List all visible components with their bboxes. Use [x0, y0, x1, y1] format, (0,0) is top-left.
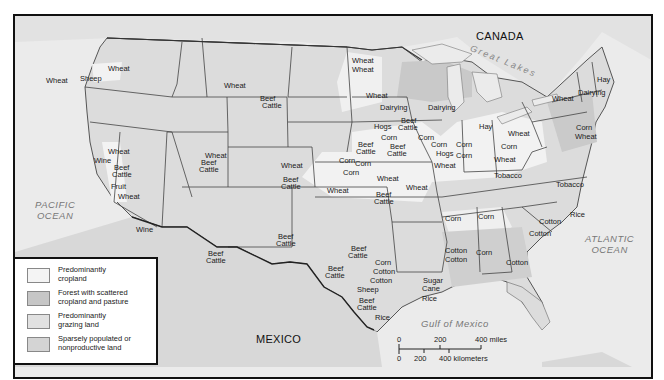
- label-pacific-ocean: PACIFIC OCEAN: [35, 199, 75, 221]
- legend-label: Predominantly grazing land: [58, 312, 106, 329]
- crop-label-hay: Hay: [479, 123, 492, 131]
- crop-label-dairying: Dairying: [578, 89, 606, 97]
- crop-label-rice: Rice: [570, 211, 585, 219]
- scale-km-0: 0: [397, 354, 401, 363]
- crop-label-wheat: Wheat: [224, 82, 246, 90]
- crop-label-rice: Rice: [422, 295, 437, 303]
- crop-label-corn: Corn: [339, 157, 355, 165]
- crop-label-corn: Corn: [501, 143, 517, 151]
- crop-label-sheep: Sheep: [357, 286, 379, 294]
- crop-label-cotton: Cotton: [539, 218, 561, 226]
- crop-label-cattle: Cattle: [356, 148, 376, 156]
- legend-swatch-cropland: [27, 268, 50, 283]
- label-canada: CANADA: [476, 30, 524, 42]
- legend-label: Predominantly cropland: [58, 266, 106, 283]
- crop-label-corn: Corn: [343, 169, 359, 177]
- crop-label-corn: Corn: [381, 134, 397, 142]
- crop-label-hay: Hay: [597, 76, 610, 84]
- crop-label-cane: Cane: [422, 285, 440, 293]
- crop-label-dairying: Dairying: [428, 104, 456, 112]
- legend-swatch-grazing: [27, 314, 50, 329]
- label-mexico: MEXICO: [256, 333, 301, 345]
- legend-item-cropland: Predominantly cropland: [27, 266, 157, 288]
- crop-label-corn: Corn: [355, 160, 371, 168]
- crop-label-wheat: Wheat: [366, 92, 388, 100]
- crop-label-hogs: Hogs: [436, 150, 454, 158]
- crop-label-cattle: Cattle: [262, 102, 282, 110]
- crop-label-corn: Corn: [431, 141, 447, 149]
- legend-line2: grazing land: [58, 321, 106, 330]
- crop-label-cattle: Cattle: [387, 150, 407, 158]
- crop-label-wheat: Wheat: [46, 77, 68, 85]
- crop-label-corn: Corn: [445, 215, 461, 223]
- crop-label-wheat: Wheat: [108, 148, 130, 156]
- atlantic-line2: OCEAN: [585, 244, 634, 255]
- crop-label-wine: Wine: [94, 157, 111, 165]
- label-gulf-of-mexico: Gulf of Mexico: [421, 318, 489, 329]
- crop-label-sheep: Sheep: [80, 75, 102, 83]
- legend-swatch-sparse: [27, 337, 50, 352]
- crop-label-cattle: Cattle: [281, 183, 301, 191]
- scale-miles-400: 400 miles: [475, 335, 507, 344]
- legend-label: Forest with scattered cropland and pastu…: [58, 289, 128, 306]
- scale-miles-200: 200: [434, 335, 447, 344]
- crop-label-hogs: Hogs: [374, 123, 392, 131]
- crop-label-wine: Wine: [136, 226, 153, 234]
- crop-label-wheat: Wheat: [552, 95, 574, 103]
- crop-label-corn: Corn: [456, 141, 472, 149]
- pacific-line1: PACIFIC: [35, 199, 75, 210]
- crop-label-cattle: Cattle: [276, 240, 296, 248]
- crop-label-cotton: Cotton: [370, 277, 392, 285]
- crop-label-corn: Corn: [478, 213, 494, 221]
- scale-km-200: 200: [414, 354, 427, 363]
- crop-label-wheat: Wheat: [377, 175, 399, 183]
- crop-label-cattle: Cattle: [199, 166, 219, 174]
- crop-label-cattle: Cattle: [112, 171, 132, 179]
- crop-label-cattle: Cattle: [325, 272, 345, 280]
- legend-item-forest: Forest with scattered cropland and pastu…: [27, 289, 157, 311]
- crop-label-fruit: Fruit: [111, 183, 126, 191]
- crop-label-wheat: Wheat: [281, 162, 303, 170]
- crop-label-wheat: Wheat: [352, 57, 374, 65]
- crop-label-cotton: Cotton: [445, 256, 467, 264]
- legend-label: Sparsely populated or nonproductive land: [58, 335, 131, 352]
- legend: Predominantly cropland Forest with scatt…: [13, 257, 158, 365]
- crop-label-cotton: Cotton: [529, 230, 551, 238]
- crop-label-cotton: Cotton: [445, 247, 467, 255]
- crop-label-wheat: Wheat: [494, 156, 516, 164]
- crop-label-corn: Corn: [576, 124, 592, 132]
- crop-label-wheat: Wheat: [508, 130, 530, 138]
- crop-label-rice: Rice: [375, 314, 390, 322]
- crop-label-cattle: Cattle: [357, 304, 377, 312]
- crop-label-cattle: Cattle: [374, 198, 394, 206]
- crop-label-tobacco: Tobacco: [494, 172, 522, 180]
- scale-miles-0: 0: [397, 335, 401, 344]
- legend-line2: nonproductive land: [58, 344, 131, 353]
- crop-label-corn: Corn: [456, 152, 472, 160]
- crop-label-cotton: Cotton: [373, 268, 395, 276]
- crop-label-tobacco: Tobacco: [556, 181, 584, 189]
- scale-km-400: 400 kilometers: [439, 354, 488, 363]
- crop-label-wheat: Wheat: [575, 133, 597, 141]
- crop-label-cotton: Cotton: [506, 259, 528, 267]
- label-atlantic-ocean: ATLANTIC OCEAN: [585, 233, 634, 255]
- crop-label-wheat: Wheat: [108, 65, 130, 73]
- legend-item-grazing: Predominantly grazing land: [27, 312, 157, 334]
- legend-line2: cropland: [58, 275, 106, 284]
- legend-line2: cropland and pasture: [58, 298, 128, 307]
- crop-label-corn: Corn: [375, 259, 391, 267]
- atlantic-line1: ATLANTIC: [585, 233, 634, 244]
- crop-label-corn: Corn: [476, 249, 492, 257]
- crop-label-cattle: Cattle: [398, 124, 418, 132]
- crop-label-wheat: Wheat: [406, 184, 428, 192]
- crop-label-wheat: Wheat: [434, 162, 456, 170]
- scale-bar: 0 200 400 miles 0 200 400 kilometers: [395, 335, 525, 365]
- crop-label-wheat: Wheat: [118, 193, 140, 201]
- crop-label-wheat: Wheat: [352, 66, 374, 74]
- legend-item-sparse: Sparsely populated or nonproductive land: [27, 335, 157, 357]
- crop-label-cattle: Cattle: [348, 252, 368, 260]
- crop-label-wheat: Wheat: [327, 187, 349, 195]
- pacific-line2: OCEAN: [35, 210, 75, 221]
- crop-label-cattle: Cattle: [206, 257, 226, 265]
- legend-swatch-forest: [27, 291, 50, 306]
